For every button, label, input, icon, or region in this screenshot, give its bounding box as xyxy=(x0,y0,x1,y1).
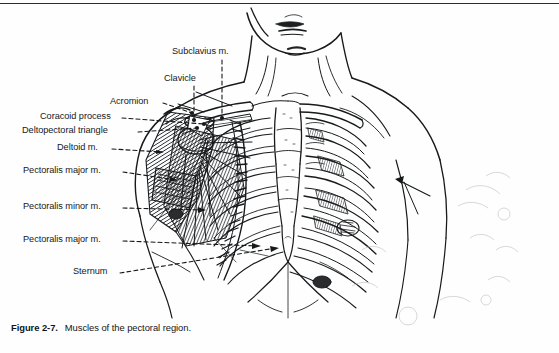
figure-caption: Figure 2-7.Muscles of the pectoral regio… xyxy=(11,322,191,333)
figure-page: Subclavius m. Clavicle Acromion Coracoid… xyxy=(0,0,559,353)
label-sternum: Sternum xyxy=(73,266,107,277)
label-acromion: Acromion xyxy=(110,96,148,107)
label-subclavius: Subclavius m. xyxy=(172,46,229,57)
label-deltoid: Deltoid m. xyxy=(57,142,98,153)
label-pectoralis-minor: Pectoralis minor m. xyxy=(23,201,101,212)
figure-caption-number: Figure 2-7. xyxy=(11,322,58,333)
label-clavicle: Clavicle xyxy=(164,73,196,84)
label-pectoralis-major-upper: Pectoralis major m. xyxy=(23,165,101,176)
pectoral-region-anatomical-drawing xyxy=(0,0,559,353)
figure-caption-text: Muscles of the pectoral region. xyxy=(65,322,191,333)
label-deltopectoral-triangle: Deltopectoral triangle xyxy=(22,125,108,136)
label-coracoid-process: Coracoid process xyxy=(40,111,111,122)
label-pectoralis-major-lower: Pectoralis major m. xyxy=(23,234,101,245)
